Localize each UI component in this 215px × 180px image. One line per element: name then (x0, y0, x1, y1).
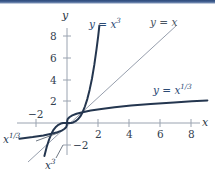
cube-root-branch-label-exponent: 1/3 (9, 131, 20, 140)
cubic-label-leader-line (56, 145, 63, 158)
cube-root-curve (19, 100, 207, 138)
cubic-curve-label: y = x3 (89, 17, 121, 29)
cubic-curve (44, 25, 99, 156)
y-tick-label-4: 4 (50, 75, 57, 86)
cubic-branch-label: x3 (45, 158, 55, 170)
function-graph-figure: y x 8 6 4 2 −2 −2 2 4 6 8 y = x3 y = x y… (0, 0, 215, 180)
x-tick-label-minus-2: −2 (28, 109, 43, 120)
cube-root-curve-label-exponent: 1/3 (180, 82, 191, 91)
y-axis-label: y (62, 10, 68, 21)
y-tick-label-8: 8 (50, 31, 57, 42)
cube-root-curve-label: y = x1/3 (153, 83, 192, 95)
x-tick-label-6: 6 (157, 129, 164, 140)
cube-root-curve-label-base: y = x (153, 84, 180, 96)
identity-line-label-text: y = x (150, 16, 177, 28)
y-tick-label-6: 6 (50, 53, 57, 64)
cubic-curve-label-base: y = x (89, 18, 116, 30)
x-axis-label: x (202, 117, 208, 128)
y-tick-label-minus-2: −2 (73, 140, 88, 151)
identity-line-label: y = x (150, 17, 177, 28)
cubic-curve-label-exponent: 3 (116, 16, 121, 25)
y-tick-label-2: 2 (50, 96, 57, 107)
cube-root-branch-label: x1/3 (3, 132, 20, 144)
x-tick-label-8: 8 (188, 129, 195, 140)
x-tick-label-2: 2 (95, 129, 102, 140)
cubic-branch-label-exponent: 3 (51, 157, 56, 166)
x-tick-label-4: 4 (126, 129, 133, 140)
